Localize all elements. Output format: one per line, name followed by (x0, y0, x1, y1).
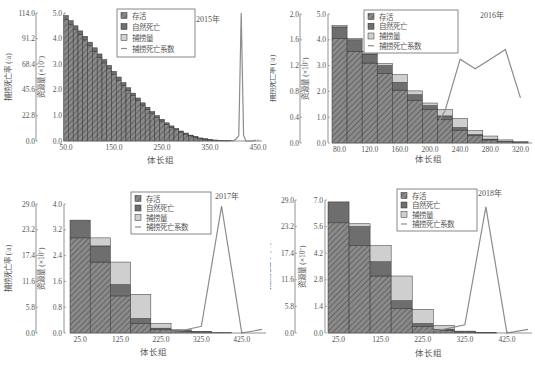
bar-segment (90, 238, 110, 246)
bar-segment (90, 246, 110, 262)
bar-segment (92, 51, 97, 141)
bar-segment (136, 98, 141, 101)
bar-segment (150, 114, 155, 141)
bar-segment (169, 127, 174, 141)
y2-tick-label: 68.4 (22, 60, 35, 69)
bar-segment (73, 30, 78, 141)
bar-segment (126, 88, 131, 91)
x-tick-label: 200.0 (422, 145, 439, 154)
y-tick-label: 4.0 (53, 200, 63, 209)
bar-segment (131, 318, 151, 323)
bar-segment (102, 63, 107, 141)
x-tick-label: 225.0 (153, 335, 170, 344)
bar-segment (174, 130, 179, 141)
x-tick-label: 280.0 (482, 145, 499, 154)
bar-segment (370, 246, 391, 262)
y2-tick-label: 0.0 (285, 329, 295, 338)
legend-item-label: 存活 (379, 12, 394, 22)
bar-segment (468, 131, 483, 135)
legend: 存活自然死亡捕捞量捕捞死亡系数 (117, 9, 195, 57)
chart-title: 2017年 (215, 191, 239, 201)
y2-tick-label: 29.0 (281, 196, 294, 205)
bar-segment (140, 105, 145, 141)
legend-item-label: 捕捞死亡系数 (379, 41, 422, 51)
x-tick-label: 225.0 (414, 335, 431, 344)
x-tick-label: 160.0 (391, 145, 408, 154)
y2-tick-label: 0.0 (290, 139, 300, 148)
bar-segment (412, 309, 433, 323)
bar-segment (377, 66, 392, 74)
bar-segment (110, 262, 130, 285)
x-tick-label: 450.0 (250, 143, 267, 152)
y-tick-label: 1.6 (53, 277, 63, 286)
bar-segment (140, 103, 145, 105)
x-tick-label: 150.0 (106, 143, 123, 152)
bar-segment (97, 57, 102, 141)
y2-tick-label: 17.4 (22, 251, 35, 260)
x-tick-label: 425.0 (233, 335, 250, 344)
y2-tick-label: 91.2 (22, 34, 35, 43)
bar-segment (422, 109, 437, 143)
bar-segment (83, 40, 88, 141)
legend-item-label: 捕捞死亡系数 (146, 222, 189, 232)
y2-tick-label: 0.8 (290, 87, 300, 96)
bar-segment (407, 100, 422, 143)
bar-segment (78, 31, 83, 35)
chart-title: 2015年 (196, 14, 220, 24)
bar-segment (184, 134, 189, 141)
y2-tick-label: 0.0 (26, 329, 36, 338)
bar-segment (498, 140, 513, 141)
bar-segment (422, 106, 437, 110)
bar-segment (88, 46, 93, 141)
x-axis-label: 体长组 (147, 155, 174, 165)
bar-segment (179, 131, 184, 132)
bar-segment (68, 21, 73, 25)
y-tick-label: 4.0 (53, 34, 63, 43)
bar-segment (160, 121, 165, 141)
bar-segment (332, 27, 347, 39)
y-axis-label: 资源量 (×10⁷) (36, 55, 46, 98)
x-tick-label: 325.0 (193, 335, 210, 344)
y-tick-label: 1.0 (53, 111, 63, 120)
legend-item-label: 捕捞量 (146, 213, 168, 223)
bar-segment (328, 202, 349, 223)
bar-segment (347, 51, 362, 143)
y2-tick-label: 2.0 (290, 10, 300, 19)
chart-svg: 80.0120.0160.0200.0240.0280.0320.0体长组0.0… (270, 0, 535, 185)
y-tick-label: 2.4 (53, 251, 63, 260)
bar-segment (483, 136, 498, 139)
bar-segment (70, 238, 90, 333)
legend-item-label: 自然死亡 (146, 203, 175, 213)
x-tick-label: 120.0 (361, 145, 378, 154)
bar-segment (377, 73, 392, 143)
chart-svg: 25.0125.0225.0325.0425.0体长组0.01.42.84.25… (270, 185, 535, 367)
chart-2018: 25.0125.0225.0325.0425.0体长组0.01.42.84.25… (270, 185, 535, 367)
y-axis-label: 资源量 (×10⁷) (300, 57, 310, 100)
chart-2016: 80.0120.0160.0200.0240.0280.0320.0体长组0.0… (270, 0, 535, 185)
legend-item-label: 捕捞量 (412, 210, 434, 220)
bar-segment (116, 80, 121, 141)
x-tick-label: 125.0 (372, 335, 389, 344)
legend: 存活自然死亡捕捞量捕捞死亡系数 (131, 192, 211, 234)
bar-segment (151, 323, 171, 328)
legend-item-label: 自然死亡 (379, 21, 408, 31)
bar-segment (468, 136, 483, 143)
chart-svg: 50.0150.0250.0350.0450.0体长组0.01.02.03.04… (0, 0, 270, 185)
y2-tick-label: 45.6 (22, 85, 35, 94)
bar-segment (169, 126, 174, 127)
y2-tick-label: 22.8 (22, 111, 35, 120)
y-tick-label: 0.8 (53, 303, 63, 312)
bar-segment (121, 83, 126, 86)
bar-segment (349, 227, 370, 246)
bar-segment (453, 118, 468, 127)
x-tick-label: 25.0 (332, 335, 345, 344)
bar-segment (391, 301, 412, 309)
chart-title: 2016年 (480, 10, 504, 20)
bar-segment (164, 123, 169, 125)
y-tick-label: 7.0 (314, 196, 324, 205)
bar-segment (453, 128, 468, 131)
bar-segment (328, 223, 349, 333)
legend-item-label: 捕捞量 (379, 31, 401, 41)
bar-segment (179, 132, 184, 141)
legend: 存活自然死亡捕捞量捕捞死亡系数 (397, 189, 477, 231)
